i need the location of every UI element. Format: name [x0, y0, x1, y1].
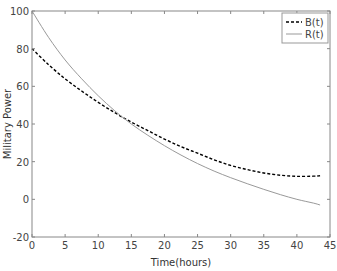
y-tick-label: 40	[16, 119, 29, 130]
x-tick-label: 10	[92, 240, 105, 251]
series-line-bt	[32, 49, 320, 177]
x-tick-label: 5	[62, 240, 68, 251]
x-axis-label: Time(hours)	[150, 257, 211, 268]
legend-label: R(t)	[305, 29, 324, 40]
legend-label: B(t)	[305, 17, 324, 28]
x-tick-label: 35	[257, 240, 270, 251]
x-tick-label: 30	[224, 240, 237, 251]
x-tick-label: 20	[158, 240, 171, 251]
x-tick-label: 45	[324, 240, 337, 251]
legend: B(t)R(t)	[282, 13, 328, 43]
x-tick-label: 40	[291, 240, 304, 251]
y-tick-label: 20	[16, 157, 29, 168]
line-chart: 051015202530354045-20020406080100 Time(h…	[0, 0, 337, 271]
y-axis-label: Military Power	[2, 88, 13, 159]
series-line-rt	[32, 11, 320, 205]
x-tick-label: 25	[191, 240, 204, 251]
series-layer	[32, 11, 320, 205]
y-tick-label: 100	[10, 6, 29, 17]
x-tick-label: 0	[29, 240, 35, 251]
axes-box	[32, 11, 330, 237]
y-tick-label: 60	[16, 81, 29, 92]
y-tick-label: -20	[13, 232, 29, 243]
x-tick-label: 15	[125, 240, 138, 251]
y-tick-label: 0	[23, 194, 29, 205]
y-tick-label: 80	[16, 44, 29, 55]
